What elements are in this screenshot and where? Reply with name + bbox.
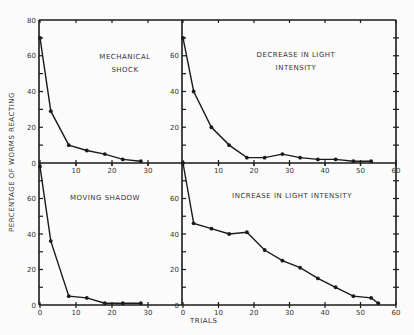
y-tick-label: 60 [27, 195, 36, 203]
data-point [121, 158, 125, 162]
data-point [316, 158, 320, 162]
x-tick-label: 10 [214, 309, 223, 317]
data-point [263, 248, 267, 252]
data-point [67, 143, 71, 147]
panel-title-increase-light: INCREASE IN LIGHT INTENSITY [232, 192, 352, 200]
data-point [369, 159, 373, 163]
data-point [181, 36, 185, 40]
x-tick-label: 10 [214, 167, 223, 175]
x-tick-label: 40 [321, 167, 330, 175]
x-tick-label: 10 [72, 167, 81, 175]
data-point [38, 165, 42, 169]
x-tick-label: 10 [72, 309, 81, 317]
x-tick-label: 20 [108, 309, 117, 317]
data-point [352, 294, 356, 298]
x-tick-label: 20 [250, 309, 259, 317]
data-line [40, 167, 141, 304]
panel-title-moving-shadow: MOVING SHADOW [70, 194, 140, 202]
y-tick-label: 20 [170, 266, 179, 274]
data-point [281, 152, 285, 156]
y-tick-label: 20 [27, 266, 36, 274]
y-tick-label: 0 [175, 302, 179, 310]
data-point [67, 294, 71, 298]
y-tick-label: 20 [170, 124, 179, 132]
x-tick-label: 60 [392, 309, 401, 317]
x-tick-label: 30 [285, 309, 294, 317]
data-point [281, 259, 285, 263]
y-tick-label: 60 [170, 52, 179, 60]
data-point [298, 156, 302, 160]
x-tick-label: 50 [356, 167, 365, 175]
data-point [85, 296, 89, 300]
data-point [245, 230, 249, 234]
y-tick-label: 60 [27, 52, 36, 60]
x-tick-label: 30 [144, 167, 153, 175]
data-point [181, 161, 185, 165]
x-tick-label: 50 [356, 309, 365, 317]
y-tick-label: 40 [27, 88, 36, 96]
x-tick-label: 0 [181, 309, 185, 317]
y-tick-label: 40 [170, 88, 179, 96]
data-line [183, 163, 378, 303]
data-point [49, 109, 53, 113]
data-point [376, 301, 380, 305]
y-axis-label: PERCENTAGE OF WORMS REACTING [8, 92, 16, 232]
data-point [139, 301, 143, 305]
x-tick-label: 30 [144, 309, 153, 317]
x-tick-label: 20 [250, 167, 259, 175]
figure: 0204060801020302040601020304050600204060… [0, 0, 414, 335]
data-point [121, 301, 125, 305]
y-tick-label: 20 [27, 124, 36, 132]
y-tick-label: 80 [27, 17, 36, 25]
data-point [263, 156, 267, 160]
data-point [49, 239, 53, 243]
x-tick-label: 20 [108, 167, 117, 175]
data-point [227, 232, 231, 236]
data-point [210, 125, 214, 129]
x-tick-label: 0 [38, 309, 42, 317]
data-point [298, 266, 302, 270]
panel-title-mechanical-shock-2: SHOCK [111, 66, 138, 74]
data-point [103, 152, 107, 156]
data-point [316, 276, 320, 280]
data-point [227, 143, 231, 147]
data-point [192, 90, 196, 94]
data-point [352, 159, 356, 163]
x-axis-label: TRIALS [189, 317, 217, 325]
data-point [103, 301, 107, 305]
y-tick-label: 0 [32, 302, 36, 310]
data-point [192, 221, 196, 225]
y-tick-label: 60 [170, 195, 179, 203]
data-point [334, 285, 338, 289]
data-point [139, 159, 143, 163]
panel-title-mechanical-shock: MECHANICAL [99, 53, 150, 61]
y-tick-label: 0 [32, 160, 36, 168]
data-point [85, 149, 89, 153]
x-tick-label: 30 [285, 167, 294, 175]
x-tick-label: 40 [321, 309, 330, 317]
panel-title-decrease-light-2: INTENSITY [276, 64, 317, 72]
y-tick-label: 40 [170, 231, 179, 239]
data-point [369, 296, 373, 300]
y-tick-label: 40 [27, 231, 36, 239]
data-point [334, 158, 338, 162]
x-tick-label: 60 [392, 167, 401, 175]
data-point [38, 36, 42, 40]
panel-title-decrease-light: DECREASE IN LIGHT [257, 51, 336, 59]
data-point [245, 156, 249, 160]
data-point [210, 227, 214, 231]
